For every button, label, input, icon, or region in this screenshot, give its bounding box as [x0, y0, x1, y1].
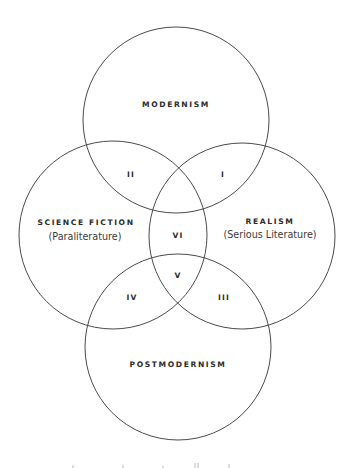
circle-modernism [83, 27, 269, 213]
region-vi: VI [172, 231, 183, 240]
circle-postmodernism [85, 254, 271, 440]
label-realism: REALISM [246, 217, 295, 226]
label-serious-literature: (Serious Literature) [223, 229, 316, 240]
cut-off-caption [73, 463, 229, 468]
region-v: V [174, 271, 181, 280]
label-paraliterature: (Paraliterature) [49, 231, 122, 242]
venn-diagram: MODERNISM SCIENCE FICTION (Paraliteratur… [0, 0, 352, 468]
label-modernism: MODERNISM [142, 100, 210, 109]
label-science-fiction: SCIENCE FICTION [37, 218, 134, 227]
region-i: I [221, 170, 225, 179]
region-iii: III [218, 293, 230, 302]
region-ii: II [127, 170, 135, 179]
label-postmodernism: POSTMODERNISM [129, 360, 226, 369]
region-iv: IV [126, 293, 137, 302]
